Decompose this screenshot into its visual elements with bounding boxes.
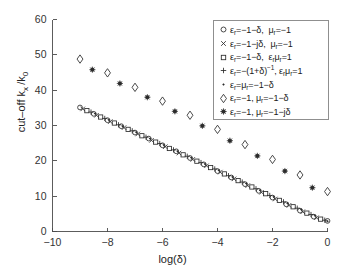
series-4 (94, 113, 328, 222)
legend-label: εr=μr=−1−δ (230, 80, 274, 90)
star-marker-icon (217, 106, 230, 117)
data-point (122, 125, 124, 127)
data-point (246, 183, 248, 185)
y-tick-label: 40 (35, 84, 47, 96)
circle-marker-icon (217, 24, 230, 35)
legend-label: εr=−1, μr=−1−jδ (230, 107, 290, 117)
x-tick-label: −4 (212, 236, 224, 248)
data-point (209, 165, 213, 169)
data-point (85, 109, 89, 113)
data-point (167, 146, 171, 150)
legend: εr=−1−δ, μr=−1εr=−1−jδ, μr=−1εr=−1−δ, εr… (213, 20, 329, 120)
x-axis-title: log(δ) (0, 253, 345, 265)
data-point (140, 134, 144, 138)
data-point (99, 115, 103, 119)
x-tick-label: −10 (44, 236, 62, 248)
data-point (136, 131, 138, 133)
y-tick-label: 50 (35, 48, 47, 60)
legend-label: εr=−1−δ, εrμr=1 (230, 52, 292, 62)
data-point (273, 196, 275, 198)
y-tick-label: 60 (35, 13, 47, 25)
series-0 (78, 105, 330, 223)
data-point (222, 172, 226, 176)
data-point (232, 176, 234, 178)
legend-item-0: εr=−1−δ, μr=−1 (217, 23, 325, 37)
data-point (297, 171, 303, 179)
data-point (277, 198, 281, 202)
data-point (282, 168, 288, 174)
diamond-marker-icon (217, 93, 230, 104)
data-point (309, 185, 315, 191)
data-point (191, 157, 193, 159)
data-point (301, 209, 303, 211)
y-tick-label: 20 (35, 154, 47, 166)
cross-marker-icon (217, 38, 230, 49)
dot-marker-icon (217, 79, 230, 90)
x-tick-label: −8 (102, 236, 114, 248)
data-point (154, 140, 158, 144)
data-point (160, 97, 166, 105)
data-point (314, 215, 316, 217)
data-point (254, 153, 260, 159)
data-point (149, 138, 151, 140)
x-tick-label: 0 (325, 236, 331, 248)
data-point (108, 119, 110, 121)
legend-item-5: εr=−1, μr=−1−δ (217, 91, 325, 105)
data-point (177, 151, 179, 153)
legend-label: εr=−1−δ, μr=−1 (230, 25, 291, 35)
y-tick-label: 10 (35, 190, 47, 202)
data-point (204, 163, 206, 165)
y-axis-title: cut–off kx /k0 (15, 47, 27, 157)
data-point (181, 153, 185, 157)
legend-label: εr=−1, μr=−1−δ (230, 93, 288, 103)
plus-marker-icon (217, 65, 230, 76)
data-point (105, 69, 111, 77)
data-point (236, 178, 240, 182)
data-point (187, 111, 193, 119)
x-tick-label: −2 (267, 236, 279, 248)
x-tick-label: −6 (157, 236, 169, 248)
data-point (172, 108, 178, 114)
legend-item-1: εr=−1−jδ, μr=−1 (217, 37, 325, 51)
square-marker-icon (217, 52, 230, 63)
data-point (327, 221, 329, 223)
y-tick-label: 30 (35, 119, 47, 131)
data-point (195, 159, 199, 163)
data-point (250, 185, 254, 189)
legend-label: εr=−(1+δ)−1, εrμr=1 (230, 66, 302, 76)
data-point (227, 138, 233, 144)
legend-item-2: εr=−1−δ, εrμr=1 (217, 50, 325, 64)
data-point (215, 125, 221, 133)
figure-container: 0102030405060−10−8−6−4−20 cut–off kx /k0… (0, 0, 345, 278)
data-point (163, 144, 165, 146)
data-point (270, 155, 276, 163)
data-point (112, 121, 116, 125)
legend-item-4: εr=μr=−1−δ (217, 78, 325, 92)
data-point (305, 211, 309, 215)
data-point (77, 55, 83, 63)
data-point (89, 67, 95, 73)
data-point (94, 113, 96, 115)
data-point (132, 83, 138, 91)
data-point (259, 189, 261, 191)
legend-label: εr=−1−jδ, μr=−1 (230, 39, 293, 49)
data-point (242, 140, 248, 148)
data-point (291, 205, 295, 209)
legend-item-3: εr=−(1+δ)−1, εrμr=1 (217, 64, 325, 78)
data-point (264, 192, 268, 196)
legend-item-6: εr=−1, μr=−1−jδ (217, 105, 325, 119)
data-point (287, 202, 289, 204)
data-point (319, 217, 323, 221)
data-point (144, 94, 150, 100)
series-3 (88, 109, 327, 222)
data-point (218, 170, 220, 172)
data-point (117, 80, 123, 86)
data-point (199, 123, 205, 129)
data-point (126, 127, 130, 131)
